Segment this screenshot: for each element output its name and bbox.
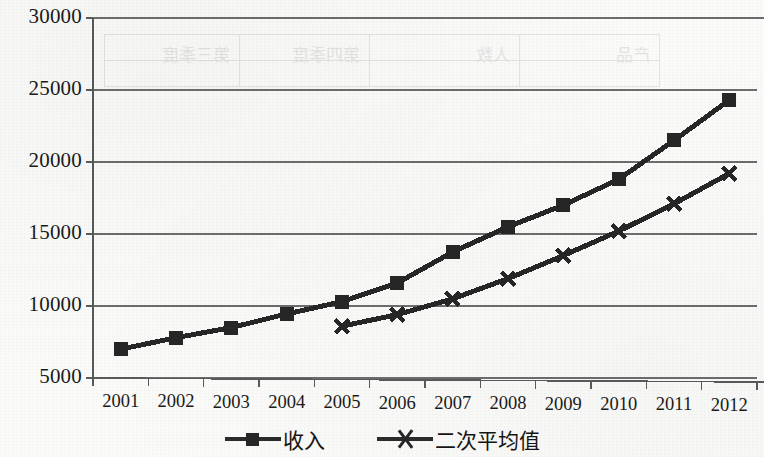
legend-square-marker-icon [225,429,281,449]
x-axis-label-2008: 2008 [479,393,537,414]
x-axis-label-2001: 2001 [92,391,150,412]
series-2 [335,167,736,333]
x-axis-label-2007: 2007 [424,393,482,414]
x-axis-label-2004: 2004 [258,392,316,413]
x-axis-label-2010: 2010 [590,394,648,415]
x-axis-label-2012: 2012 [700,395,758,416]
data-point-marker [280,307,294,321]
data-point-marker [722,93,736,107]
x-axis-label-2002: 2002 [147,391,205,412]
x-axis-label-2006: 2006 [368,393,426,414]
legend-item-1: 收入 [225,424,325,454]
series-1 [114,93,737,356]
y-axis-label-25000: 25000 [0,76,82,101]
chart-legend: 收入二次平均值 [0,424,764,454]
line-chart-plot [0,0,764,457]
legend-x-marker-icon [377,429,433,449]
x-axis-label-2005: 2005 [313,392,371,413]
data-point-marker [114,342,128,356]
y-axis-label-5000: 5000 [0,364,82,389]
data-point-marker [667,133,681,147]
series-line [342,174,729,327]
series-line [121,100,730,349]
x-axis-label-2011: 2011 [645,394,703,415]
y-axis-label-10000: 10000 [0,292,82,317]
data-point-marker [390,276,404,290]
y-axis-label-15000: 15000 [0,220,82,245]
legend-label: 收入 [283,424,325,454]
data-point-marker [612,172,626,186]
data-point-marker [335,295,349,309]
data-point-marker [224,321,238,335]
x-axis-label-2003: 2003 [202,392,260,413]
data-point-marker [169,331,183,345]
y-axis-label-20000: 20000 [0,148,82,173]
x-axis-label-2009: 2009 [534,394,592,415]
data-point-marker [556,198,570,212]
data-point-marker [501,220,515,234]
legend-label: 二次平均值 [435,424,540,454]
data-point-marker [446,245,460,259]
legend-item-2: 二次平均值 [377,424,540,454]
y-axis-label-30000: 30000 [0,4,82,29]
